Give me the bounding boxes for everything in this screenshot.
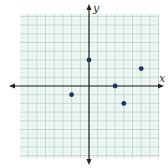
data-point <box>113 84 118 89</box>
data-point <box>69 92 74 97</box>
data-point <box>87 58 92 63</box>
y-axis-bottom-arrow-icon <box>87 159 92 165</box>
x-axis-left-arrow-icon <box>9 84 15 89</box>
data-point <box>139 66 144 71</box>
y-axis-top-arrow-icon <box>87 4 92 10</box>
data-point <box>121 101 126 106</box>
x-axis-label: x <box>159 72 166 85</box>
y-axis-label: y <box>92 2 100 15</box>
coordinate-plane: x y <box>0 0 168 168</box>
